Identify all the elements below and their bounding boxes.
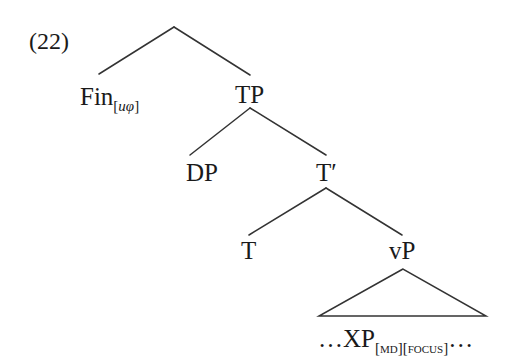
node-dp: DP: [186, 160, 218, 185]
node-fin-subscript: [uφ]: [113, 98, 139, 114]
node-fin: Fin[uφ]: [80, 84, 139, 114]
vp-triangle: [319, 269, 486, 316]
branch-root-fin: [99, 27, 174, 74]
branch-tp-tbar: [250, 108, 326, 155]
ellipsis-left: …: [318, 325, 343, 352]
feature-md: [MD]: [375, 340, 403, 356]
node-xp-features: [MD][FOCUS]: [375, 340, 448, 356]
node-tbar: T′: [316, 160, 337, 185]
node-fin-label: Fin: [80, 83, 113, 110]
branch-tbar-vp: [326, 188, 402, 235]
node-vp: vP: [389, 238, 415, 263]
ellipsis-right: …: [448, 325, 473, 352]
tree-branches: [0, 0, 520, 363]
node-t: T: [241, 238, 256, 263]
feature-u-phi: uφ: [118, 98, 134, 114]
example-number: (22): [29, 29, 69, 53]
branch-tp-dp: [190, 108, 250, 155]
node-xp-label: XP: [343, 325, 375, 352]
node-xp: …XP[MD][FOCUS]…: [318, 326, 473, 356]
branch-tbar-t: [249, 188, 326, 235]
node-tp: TP: [235, 82, 264, 107]
branch-root-tp: [174, 27, 250, 75]
bracket-close: ]: [134, 98, 139, 114]
feature-focus: [FOCUS]: [403, 340, 448, 356]
